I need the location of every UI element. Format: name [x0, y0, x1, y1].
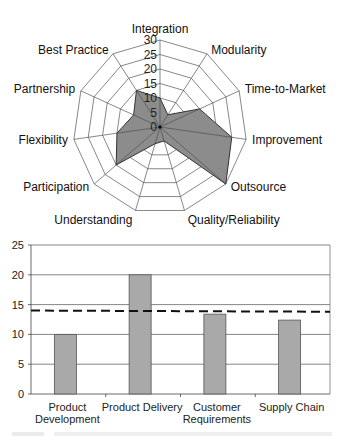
bar-chart: 0510152025ProductDevelopmentProduct Deli… [0, 230, 345, 442]
bar-x-tick-labels: ProductDevelopmentProduct DeliveryCustom… [35, 401, 324, 425]
bar-category-label: Requirements [183, 413, 252, 425]
radar-axis-label: Quality/Reliability [188, 213, 280, 227]
radar-plot: 051015202530IntegrationModularityTime-to… [0, 0, 345, 230]
radar-axis-label: Best Practice [38, 43, 109, 57]
bar-category-label: Product Delivery [102, 401, 183, 413]
radar-tick-label: 25 [144, 48, 158, 62]
bar-category-label: Supply Chain [259, 401, 324, 413]
radar-tick-label: 0 [150, 120, 157, 134]
radar-axis-label: Partnership [14, 82, 76, 96]
radar-center-dot [158, 125, 161, 128]
bar-y-tick-label: 10 [12, 328, 24, 340]
bar-y-tick-label: 20 [12, 269, 24, 281]
radar-tick-label: 15 [144, 77, 158, 91]
bar-category-label: Development [35, 413, 100, 425]
radar-axis-label: Time-to-Market [245, 82, 327, 96]
bar-category-label: Customer [193, 401, 241, 413]
radar-chart: 051015202530IntegrationModularityTime-to… [0, 0, 345, 230]
radar-axis-label: Modularity [211, 43, 266, 57]
radar-tick-label: 20 [144, 62, 158, 76]
bar [279, 320, 301, 394]
radar-axis-label: Flexibility [19, 133, 68, 147]
bar [129, 275, 151, 394]
bar-plot: 0510152025ProductDevelopmentProduct Deli… [0, 230, 345, 442]
radar-axis-label: Integration [132, 22, 189, 36]
bar-y-tick-label: 5 [18, 358, 24, 370]
bar-y-tick-label: 25 [12, 239, 24, 251]
radar-axis-label: Improvement [252, 133, 323, 147]
radar-tick-label: 10 [144, 91, 158, 105]
radar-axis-label: Participation [23, 180, 89, 194]
radar-axis-label: Understanding [54, 213, 132, 227]
bar [54, 334, 76, 394]
radar-tick-label: 5 [150, 106, 157, 120]
radar-data-area [116, 90, 232, 184]
reference-line-dashed [31, 311, 330, 312]
bar [204, 314, 226, 394]
figure-caption-faint [12, 432, 332, 436]
bar-y-tick-label: 0 [18, 388, 24, 400]
bar-category-label: Product [48, 401, 86, 413]
bar-y-tick-label: 15 [12, 299, 24, 311]
radar-axis-label: Outsource [231, 180, 287, 194]
